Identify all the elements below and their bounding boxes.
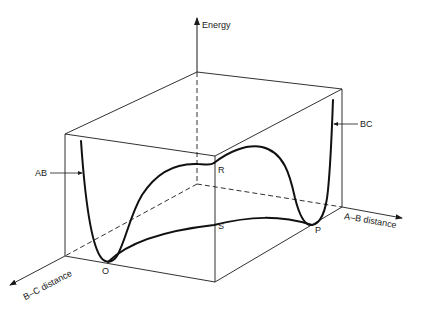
ab-curve bbox=[81, 141, 214, 262]
bc-curve bbox=[214, 100, 333, 225]
point-r-label: R bbox=[218, 166, 225, 175]
box-frame bbox=[65, 72, 342, 282]
bc-curve-label: BC bbox=[360, 120, 373, 129]
ab-curve-label: AB bbox=[35, 169, 47, 178]
minimum-energy-path bbox=[108, 218, 312, 262]
point-o-label: O bbox=[102, 267, 109, 276]
energy-curves bbox=[81, 100, 333, 262]
energy-surface-diagram bbox=[0, 0, 423, 313]
point-p-label: P bbox=[315, 226, 321, 235]
energy-axis-label: Energy bbox=[202, 21, 231, 30]
point-s-label: S bbox=[218, 222, 224, 231]
